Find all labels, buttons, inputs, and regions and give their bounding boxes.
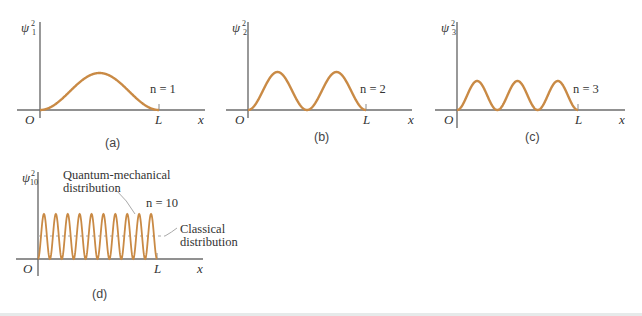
origin-label: O bbox=[25, 112, 35, 127]
origin-label: O bbox=[444, 112, 454, 127]
classical-label-line1: Classical bbox=[180, 222, 226, 236]
quantum-label-line2: distribution bbox=[63, 181, 121, 195]
y-label-sup: 2 bbox=[242, 19, 246, 28]
y-label-sub: 2 bbox=[243, 28, 247, 37]
panel-c: ψ 2 3 n = 3 O L x (c) bbox=[435, 19, 625, 144]
curve-n1 bbox=[40, 73, 159, 110]
curve-n2 bbox=[248, 72, 366, 110]
classical-leader-line bbox=[165, 228, 177, 236]
x-label: x bbox=[196, 261, 203, 276]
panel-d: ψ 2 10 Quantum-mechanical distribution n… bbox=[16, 168, 238, 301]
x-label: x bbox=[618, 112, 625, 127]
classical-label-line2: distribution bbox=[180, 235, 238, 249]
x-label: x bbox=[197, 112, 204, 127]
y-label: ψ bbox=[232, 20, 241, 35]
figure: ψ 2 1 n = 1 O L x (a) ψ 2 2 n = 2 O L x … bbox=[0, 0, 642, 316]
l-label: L bbox=[362, 112, 370, 127]
l-label: L bbox=[574, 112, 582, 127]
n-annotation: n = 3 bbox=[573, 82, 599, 96]
y-label-sup: 2 bbox=[31, 19, 35, 28]
panel-b: ψ 2 2 n = 2 O L x (b) bbox=[226, 19, 414, 144]
y-label: ψ bbox=[21, 20, 30, 35]
l-label: L bbox=[153, 261, 161, 276]
n-annotation: n = 2 bbox=[360, 82, 386, 96]
curve-n3 bbox=[457, 81, 578, 110]
n-annotation: n = 1 bbox=[150, 82, 176, 96]
panel-caption: (b) bbox=[314, 130, 329, 144]
panel-caption: (a) bbox=[105, 136, 120, 150]
y-label-sup: 2 bbox=[451, 19, 455, 28]
panel-caption: (d) bbox=[92, 287, 107, 301]
curve-n10 bbox=[38, 214, 157, 259]
y-label-sub: 10 bbox=[30, 178, 38, 187]
panel-caption: (c) bbox=[525, 130, 540, 144]
origin-label: O bbox=[235, 112, 245, 127]
y-label-sup: 2 bbox=[31, 169, 35, 178]
quantum-label-line1: Quantum-mechanical bbox=[63, 168, 171, 182]
l-label: L bbox=[154, 112, 162, 127]
y-label: ψ bbox=[441, 20, 450, 35]
y-label-sub: 3 bbox=[452, 28, 456, 37]
origin-label: O bbox=[23, 261, 33, 276]
y-label-sub: 1 bbox=[32, 28, 36, 37]
n-annotation: n = 10 bbox=[146, 196, 178, 210]
panel-a: ψ 2 1 n = 1 O L x (a) bbox=[17, 19, 205, 150]
x-label: x bbox=[407, 112, 414, 127]
